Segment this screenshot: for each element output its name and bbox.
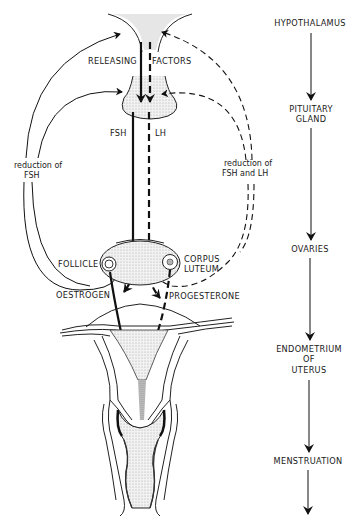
label-oestrogen: OESTROGEN — [56, 290, 110, 300]
label-releasing: RELEASING — [88, 56, 137, 66]
flow-step-pituitary-2: GLAND — [296, 114, 327, 124]
flow-step-hypothalamus: HYPOTHALAMUS — [274, 18, 346, 28]
label-reduction-fsh-2: FSH — [24, 171, 40, 180]
flow-step-endometrium-1: ENDOMETRIUM — [276, 344, 342, 354]
corpus-luteum — [163, 255, 178, 270]
uterus — [60, 304, 234, 516]
flow-step-pituitary-1: PITUITARY — [289, 104, 333, 114]
label-progesterone: PROGESTERONE — [169, 291, 240, 301]
flow-step-endometrium-2: OF — [303, 354, 315, 364]
label-corpus-1: CORPUS — [184, 254, 220, 264]
flow-step-ovaries: OVARIES — [291, 244, 329, 254]
flow-chain: HYPOTHALAMUS PITUITARY GLAND OVARIES END… — [274, 18, 346, 514]
label-follicle: FOLLICLE — [58, 259, 99, 269]
label-factors: FACTORS — [152, 56, 192, 66]
flow-step-endometrium-3: UTERUS — [292, 365, 327, 375]
flow-step-menstruation: MENSTRUATION — [274, 456, 343, 466]
hormone-cycle-diagram: RELEASING FACTORS FSH LH reduction of FS… — [0, 0, 360, 522]
label-fsh: FSH — [110, 128, 127, 138]
label-reduction-fsh-lh-2: FSH and LH — [222, 169, 268, 178]
label-reduction-fsh-1: reduction of — [14, 161, 62, 170]
label-reduction-fsh-lh-1: reduction of — [224, 159, 272, 168]
follicle — [102, 257, 116, 271]
label-corpus-2: LUTEUM — [184, 264, 219, 274]
label-lh: LH — [155, 128, 166, 138]
